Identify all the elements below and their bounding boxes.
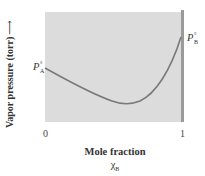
- y-axis-label: Vapor pressure (torr)⟶: [4, 20, 15, 128]
- x-axis-symbol: χB: [60, 159, 170, 172]
- chi-subscript: B: [115, 166, 119, 172]
- y-axis-label-text: Vapor pressure (torr): [4, 37, 15, 128]
- p-b-sup: °: [194, 32, 196, 38]
- x-tick-0: 0: [43, 128, 48, 139]
- p-b-label: P°B: [187, 33, 193, 44]
- arrow-right-icon: ⟶: [4, 20, 15, 34]
- p-a-sub: A: [40, 68, 44, 74]
- p-a-sup: °: [40, 61, 42, 67]
- p-a-label: P°A: [33, 62, 39, 73]
- p-b-sub: B: [194, 39, 198, 45]
- x-axis-label: Mole fraction: [60, 146, 170, 157]
- p-a-symbol: P: [33, 61, 39, 72]
- x-tick-1: 1: [180, 128, 185, 139]
- p-b-symbol: P: [187, 32, 193, 43]
